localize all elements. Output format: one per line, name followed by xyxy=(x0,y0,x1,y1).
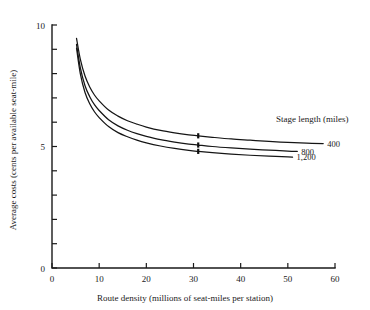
x-axis-label: Route density (millions of seat-miles pe… xyxy=(97,293,273,303)
x-tick-label: 20 xyxy=(142,274,152,284)
x-tick-label: 60 xyxy=(331,274,341,284)
series-label-400: 400 xyxy=(327,139,340,149)
chart-canvas: 01020304050600510 4008001,200 Stage leng… xyxy=(0,0,370,310)
axes xyxy=(52,25,335,268)
tick-labels: 01020304050600510 xyxy=(36,21,340,285)
curve-400 xyxy=(77,38,324,143)
tick-marks xyxy=(52,25,335,268)
x-tick-label: 30 xyxy=(189,274,199,284)
chart-figure: 01020304050600510 4008001,200 Stage leng… xyxy=(0,0,370,310)
series-label-1200: 1,200 xyxy=(297,152,316,162)
data-curves xyxy=(77,38,324,157)
series-labels: 4008001,200 xyxy=(297,139,340,163)
x-tick-label: 0 xyxy=(50,274,55,284)
y-tick-label: 0 xyxy=(41,264,46,274)
axis-lines xyxy=(52,25,335,268)
y-tick-label: 5 xyxy=(41,142,46,152)
x-tick-label: 40 xyxy=(236,274,246,284)
curve-800 xyxy=(77,44,298,151)
x-tick-label: 10 xyxy=(95,274,105,284)
x-tick-label: 50 xyxy=(283,274,293,284)
y-axis-label: Average costs (cents per available seat-… xyxy=(8,70,18,231)
y-tick-label: 10 xyxy=(36,21,46,31)
legend-title: Stage length (miles) xyxy=(276,114,348,124)
